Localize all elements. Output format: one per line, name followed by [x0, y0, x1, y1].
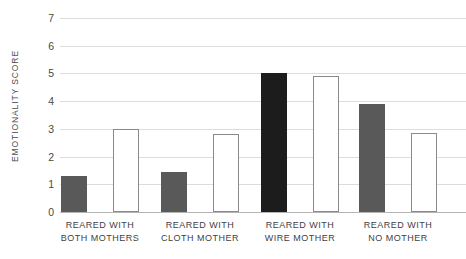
- y-axis-tick-4: 4: [40, 96, 54, 107]
- bar-filled-bar-group-0: [61, 176, 87, 212]
- y-axis-tick-7: 7: [40, 13, 54, 24]
- y-axis-tick-5: 5: [40, 68, 54, 79]
- y-axis-tick-3: 3: [40, 124, 54, 135]
- group-label-line1-3: REARED WITH: [364, 220, 433, 230]
- plot-area: [60, 18, 466, 212]
- group-label-line1-1: REARED WITH: [166, 220, 235, 230]
- bar-outlined-bar-group-1: [213, 134, 239, 212]
- bar-filled-bar-group-3: [359, 104, 385, 212]
- group-label-1: REARED WITHCLOTH MOTHER: [145, 219, 255, 245]
- group-label-line2-0: BOTH MOTHERS: [45, 232, 155, 245]
- gridline-0: [60, 212, 466, 213]
- y-axis-title: EMOTIONALITY SCORE: [4, 0, 26, 212]
- group-label-line1-2: REARED WITH: [266, 220, 335, 230]
- y-axis-tick-1: 1: [40, 179, 54, 190]
- bar-outlined-bar-group-0: [113, 129, 139, 212]
- group-label-line2-2: WIRE MOTHER: [245, 232, 355, 245]
- emotionality-score-bar-chart: EMOTIONALITY SCORE 01234567 REARED WITHB…: [0, 0, 466, 259]
- gridline-6: [60, 46, 466, 47]
- y-axis-tick-0: 0: [40, 207, 54, 218]
- bar-filled-bar-group-2: [261, 73, 287, 212]
- group-label-line1-0: REARED WITH: [66, 220, 135, 230]
- group-label-line2-3: NO MOTHER: [343, 232, 453, 245]
- group-label-2: REARED WITHWIRE MOTHER: [245, 219, 355, 245]
- group-label-3: REARED WITHNO MOTHER: [343, 219, 453, 245]
- y-axis-title-label: EMOTIONALITY SCORE: [10, 50, 20, 162]
- y-axis-tick-6: 6: [40, 40, 54, 51]
- bar-outlined-bar-group-2: [313, 76, 339, 212]
- bar-filled-bar-group-1: [161, 172, 187, 212]
- y-axis-tick-2: 2: [40, 151, 54, 162]
- group-label-line2-1: CLOTH MOTHER: [145, 232, 255, 245]
- gridline-7: [60, 18, 466, 19]
- bar-outlined-bar-group-3: [411, 133, 437, 212]
- group-label-0: REARED WITHBOTH MOTHERS: [45, 219, 155, 245]
